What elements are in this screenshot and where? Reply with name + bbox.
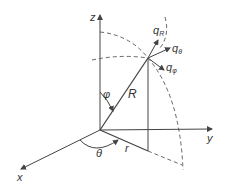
spherical-coordinates-diagram: z y x R r φ θ qR qθ qφ <box>0 0 227 188</box>
qR-label: qR <box>153 25 164 37</box>
diagram-graphic <box>0 0 227 188</box>
phi-angle-label: φ <box>103 89 110 100</box>
x-axis <box>21 130 100 169</box>
y-axis-label: y <box>207 133 213 144</box>
projection-label: r <box>125 143 129 154</box>
z-axis-label: z <box>90 12 96 23</box>
qphi-arrow <box>148 58 164 70</box>
radius-label: R <box>128 88 137 100</box>
qphi-label: qφ <box>166 62 177 74</box>
qtheta-label: qθ <box>172 43 182 55</box>
theta-angle-label: θ <box>96 148 102 159</box>
dashed-arc-meridian <box>148 58 183 170</box>
y-axis <box>100 129 212 130</box>
x-axis-label: x <box>17 172 23 183</box>
dashed-projection-ext <box>148 151 182 165</box>
projection-line <box>100 130 148 151</box>
dashed-arc-top <box>100 32 148 58</box>
